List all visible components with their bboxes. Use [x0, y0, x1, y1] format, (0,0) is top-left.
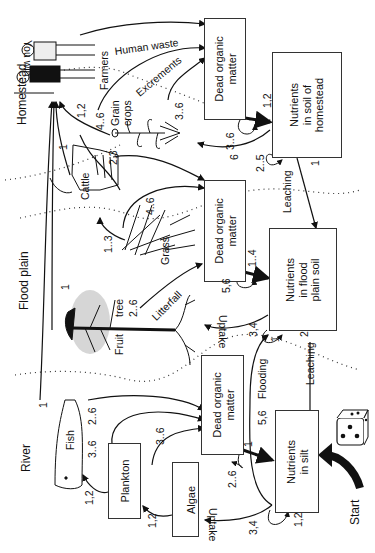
value-label: 2..6 — [227, 470, 238, 488]
value-label: 1 — [270, 336, 281, 342]
uptake-river-label: Uptake — [207, 508, 218, 541]
value-label: 1 — [38, 402, 49, 408]
value-label: 3,4 — [248, 322, 259, 337]
value-label: 4..6 — [145, 197, 156, 215]
value-label: 3..6 — [174, 102, 185, 120]
box-label: Dead organic matter — [213, 36, 238, 101]
value-label: 1,2 — [147, 513, 158, 528]
value-label: 2..5 — [255, 154, 266, 172]
value-label: 1,2 — [262, 93, 273, 108]
box-nutrients-silt: Nutrients in silt — [275, 410, 319, 513]
box-plankton: Plankton — [108, 443, 141, 519]
box-nutrients-floodplain: Nutrients in flood plain soil — [269, 228, 337, 331]
zone-river-label: River — [20, 444, 32, 472]
flooding-label: Flooding — [257, 359, 268, 399]
farmers-label: Farmers — [99, 51, 110, 90]
leaching-homestead-label: Leaching — [282, 170, 293, 213]
fruit-label: Fruit — [114, 334, 125, 355]
value-label: 2 — [299, 331, 310, 337]
value-label: 1 — [58, 144, 69, 150]
value-label: 1..3 — [103, 235, 114, 253]
zone-flood-plain-label: Flood plain — [18, 251, 30, 310]
value-label: 1..4 — [247, 249, 258, 267]
value-label: 1,2 — [76, 103, 87, 118]
value-label: 1,2 — [84, 490, 95, 505]
value-label: 2,3 — [108, 150, 119, 165]
grain-crops-label: Grain — [110, 100, 121, 126]
grain-crops-label-2: crops — [122, 100, 133, 126]
value-label: 3..6 — [87, 440, 98, 458]
value-label: 5,6 — [221, 278, 232, 293]
you-win-label: You win — [22, 40, 33, 76]
start-label: Start — [350, 500, 361, 525]
value-label: 5,6 — [257, 410, 268, 425]
tree-label: tree — [114, 299, 125, 317]
value-label: 3,4 — [248, 520, 259, 535]
fish-label: Fish — [65, 430, 76, 450]
value-label: 1 — [310, 160, 321, 166]
value-label: 1 — [243, 441, 254, 447]
box-dead-organic-matter-river: Dead organic matter — [201, 355, 244, 455]
nutrient-cycle-diagram: Homestead Flood plain River Dead organic… — [0, 0, 375, 553]
value-label: 6 — [229, 154, 240, 160]
cattle-label: Cattle — [80, 173, 91, 200]
leaching-floodplain-label: Leaching — [305, 342, 316, 385]
grass-label: Grass — [160, 237, 171, 265]
box-dead-organic-matter-homestead: Dead organic matter — [204, 18, 246, 120]
value-label: 3..6 — [225, 132, 236, 150]
value-label: 2..6 — [87, 407, 98, 425]
box-algae: Algae — [172, 462, 199, 537]
value-label: 3..6 — [155, 427, 166, 445]
value-label: 4..6 — [95, 112, 106, 130]
box-dead-organic-matter-floodplain: Dead organic matter — [204, 180, 246, 282]
dice-icon — [337, 410, 368, 445]
value-label: 1,2 — [293, 512, 304, 527]
value-label: 1 — [60, 284, 71, 290]
value-label: 2..6 — [128, 299, 139, 317]
box-nutrients-homestead: Nutrients in soil of homestead — [272, 52, 342, 158]
uptake-floodplain-label: Uptake — [217, 315, 228, 348]
